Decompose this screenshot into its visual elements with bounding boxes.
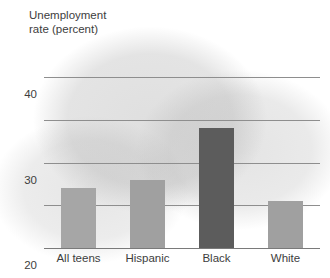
axis-baseline: 0 [44,248,320,249]
gridline-40: 40 [44,77,320,78]
gridline-30: 30 [44,120,320,121]
bar-white [268,201,303,248]
plot-area: 010203040 All teensHispanicBlackWhite [44,60,320,248]
gridline-20: 20 [44,163,320,164]
x-axis-label-all-teens: All teens [56,252,100,264]
bar-all-teens [61,188,96,248]
bar-black [199,128,234,248]
y-axis-tick-label: 20 [24,259,37,271]
x-axis-label-hispanic: Hispanic [125,252,169,264]
x-axis-label-black: Black [202,252,230,264]
bar-hispanic [130,180,165,248]
chart-title-line-2: rate (percent) [29,23,98,35]
unemployment-rate-bar-chart: Unemploymentrate (percent) 010203040 All… [0,0,330,278]
chart-title: Unemploymentrate (percent) [29,8,169,36]
y-axis-tick-label: 40 [24,88,37,100]
y-axis-tick-label: 30 [24,174,37,186]
chart-title-line-1: Unemployment [29,9,106,21]
x-axis-label-white: White [271,252,300,264]
